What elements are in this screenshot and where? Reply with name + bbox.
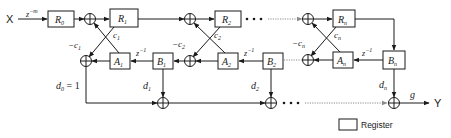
- adder-bottom-1: [81, 56, 92, 67]
- coef-neg-cn: −cn: [292, 38, 305, 49]
- gain-label: g: [410, 89, 415, 100]
- adder-bottom-n: [303, 55, 314, 66]
- coef-cn: cn: [334, 30, 341, 41]
- delay-label-n: z−1: [361, 47, 372, 58]
- delay-label-1: z−1: [135, 47, 146, 58]
- tap-dn: dn: [379, 79, 387, 91]
- adder-out-1: [158, 98, 169, 109]
- input-label: X: [6, 13, 14, 25]
- input-delay-label: z−m: [25, 8, 38, 19]
- coef-neg-c1: −c1: [68, 40, 81, 51]
- delay-label-2: z−1: [243, 47, 254, 58]
- tap-d1: d1: [143, 80, 151, 92]
- legend-register-label: Register: [361, 120, 393, 130]
- adder-out-n: [389, 98, 400, 109]
- ellipsis-bottom: [283, 102, 300, 105]
- adder-top-2: [185, 14, 196, 25]
- output-label: Y: [434, 97, 442, 109]
- tap-d0: d0 = 1: [56, 80, 80, 92]
- coef-neg-c2: −c2: [172, 39, 185, 50]
- coef-c1: c1: [113, 30, 120, 41]
- adder-out-2: [266, 98, 277, 109]
- legend-register-swatch: [339, 119, 357, 130]
- legend: Register: [339, 119, 393, 130]
- adder-top-n: [303, 14, 314, 25]
- adder-bottom-2: [185, 56, 196, 67]
- ellipsis-top: [246, 18, 263, 21]
- tap-d2: d2: [251, 80, 259, 92]
- lattice-filter-diagram: X z−m R0 R1 R2 Rn Bn: [0, 0, 451, 138]
- adder-top-1: [85, 14, 96, 25]
- coef-c2: c2: [214, 30, 221, 41]
